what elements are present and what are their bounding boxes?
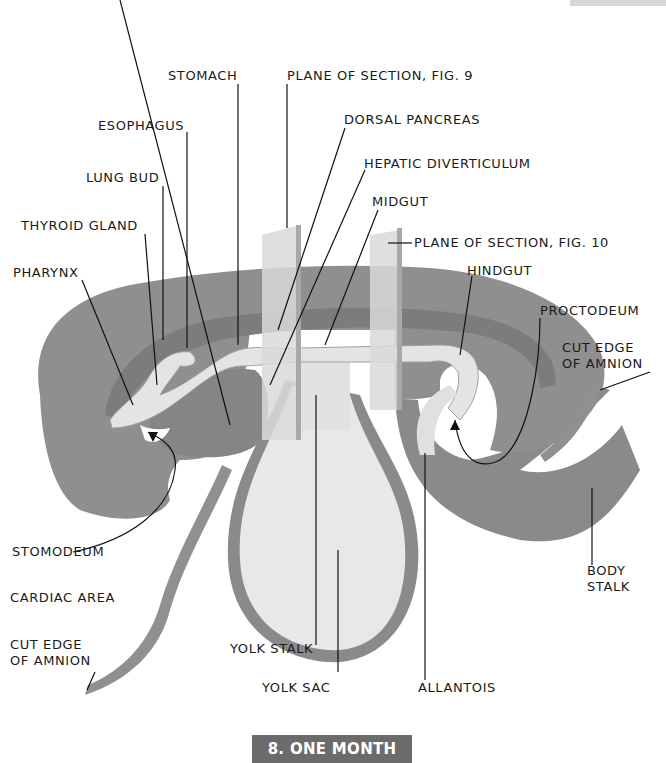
label-allantois: ALLANTOIS bbox=[418, 680, 496, 696]
label-stomach: STOMACH bbox=[168, 68, 237, 84]
label-pharynx: PHARYNX bbox=[13, 265, 78, 281]
label-body-stalk: BODY STALK bbox=[587, 563, 630, 595]
label-yolk-sac: YOLK SAC bbox=[262, 680, 330, 696]
label-cardiac-area: CARDIAC AREA bbox=[10, 590, 115, 606]
label-thyroid-gland: THYROID GLAND bbox=[21, 218, 138, 234]
label-esophagus: ESOPHAGUS bbox=[98, 118, 184, 134]
label-hepatic-diverticulum: HEPATIC DIVERTICULUM bbox=[364, 156, 531, 172]
label-hindgut: HINDGUT bbox=[467, 263, 532, 279]
plane-fig10 bbox=[370, 230, 400, 410]
label-plane-fig10: PLANE OF SECTION, FIG. 10 bbox=[414, 235, 609, 251]
figure-caption: 8. ONE MONTH bbox=[252, 735, 412, 763]
plane-fig9 bbox=[262, 225, 300, 440]
embryo-illustration bbox=[0, 0, 666, 763]
label-midgut: MIDGUT bbox=[372, 194, 428, 210]
label-yolk-stalk: YOLK STALK bbox=[230, 641, 313, 657]
label-dorsal-pancreas: DORSAL PANCREAS bbox=[344, 112, 480, 128]
label-cut-edge-amnion-right: CUT EDGE OF AMNION bbox=[562, 340, 643, 372]
label-stomodeum: STOMODEUM bbox=[12, 544, 104, 560]
label-lung-bud: LUNG BUD bbox=[86, 170, 159, 186]
label-proctodeum: PROCTODEUM bbox=[540, 303, 639, 319]
embryo-diagram: STOMACH PLANE OF SECTION, FIG. 9 ESOPHAG… bbox=[0, 0, 666, 763]
label-plane-fig9: PLANE OF SECTION, FIG. 9 bbox=[287, 68, 473, 84]
label-cut-edge-amnion-left: CUT EDGE OF AMNION bbox=[10, 637, 91, 669]
